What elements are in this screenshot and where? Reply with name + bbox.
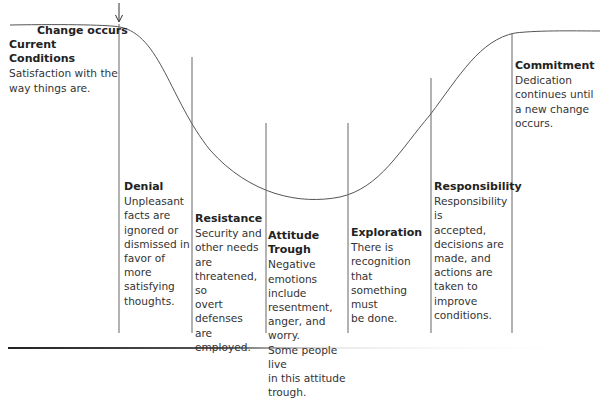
stage-line: ignored or <box>124 223 194 237</box>
stage-line: satisfying <box>124 279 194 293</box>
stage-line: in this attitude <box>268 371 350 385</box>
stage-line: Unpleasant <box>124 194 194 208</box>
stage-line: be done. <box>351 311 433 325</box>
stage-line: threatened, so <box>195 269 267 297</box>
stage-line: Satisfaction with the <box>9 66 119 80</box>
stage-denial: Denial Unpleasant facts are ignored or d… <box>124 180 194 308</box>
stage-line: anger, and worry. <box>268 314 350 342</box>
stage-line: something must <box>351 283 433 311</box>
stage-line: Some people live <box>268 343 350 371</box>
stage-line: decisions are <box>434 237 514 251</box>
stage-line: Dedication <box>515 73 605 87</box>
stage-title: Current Conditions <box>9 38 119 66</box>
stage-title: Attitude Trough <box>268 229 350 257</box>
stage-title: Commitment <box>515 59 605 73</box>
stage-line: taken to <box>434 279 514 293</box>
stage-line: emotions include <box>268 272 350 300</box>
stage-exploration: Exploration There is recognition that so… <box>351 226 433 325</box>
stage-title: Denial <box>124 180 194 194</box>
stage-line: facts are <box>124 208 194 222</box>
stage-line: actions are <box>434 265 514 279</box>
stage-resistance: Resistance Security and other needs are … <box>195 212 267 354</box>
stage-line: conditions. <box>434 308 514 322</box>
stage-line: thoughts. <box>124 294 194 308</box>
stage-line: other needs are <box>195 240 267 268</box>
stage-commitment: Commitment Dedication continues until a … <box>515 59 605 130</box>
stage-line: a new change <box>515 102 605 116</box>
stage-line: overt defenses <box>195 297 267 325</box>
stage-line: dismissed in <box>124 237 194 251</box>
stage-line: way things are. <box>9 81 119 95</box>
stage-title: Resistance <box>195 212 267 226</box>
stage-line: recognition that <box>351 254 433 282</box>
stage-line: occurs. <box>515 116 605 130</box>
stage-line: made, and <box>434 251 514 265</box>
stage-line: favor of more <box>124 251 194 279</box>
stage-line: Negative <box>268 257 350 271</box>
stage-current-conditions: Current Conditions Satisfaction with the… <box>9 38 119 95</box>
change-occurs-label: Change occurs <box>37 24 128 37</box>
stage-line: continues until <box>515 87 605 101</box>
stage-responsibility: Responsibility Responsibility is accepte… <box>434 180 514 322</box>
stage-attitude-trough: Attitude Trough Negative emotions includ… <box>268 229 350 399</box>
stage-title: Exploration <box>351 226 433 240</box>
stage-line: accepted, <box>434 223 514 237</box>
stage-line: improve <box>434 294 514 308</box>
stage-line: trough. <box>268 385 350 399</box>
stage-line: Responsibility is <box>434 194 514 222</box>
stage-line: Security and <box>195 226 267 240</box>
stage-line: resentment, <box>268 300 350 314</box>
stage-line: are employed. <box>195 326 267 354</box>
stage-title: Responsibility <box>434 180 514 194</box>
stage-line: There is <box>351 240 433 254</box>
